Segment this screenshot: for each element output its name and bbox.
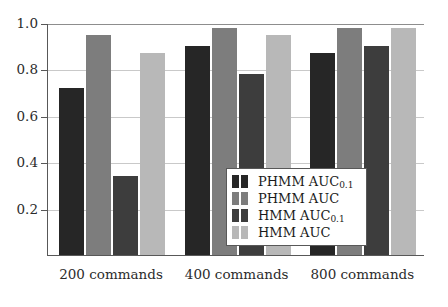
legend-item-1: PHMM AUC0.1: [232, 173, 360, 190]
y-tick-label-0.2: 0.2: [0, 203, 38, 217]
bar-400-commands-series-1: [185, 46, 210, 255]
legend-swatch-icon-1: [232, 175, 252, 188]
y-tick-label-0.4: 0.4: [0, 156, 38, 170]
chart-legend: PHMM AUC0.1PHMM AUCHMM AUC0.1HMM AUC: [226, 168, 367, 246]
x-tick-label-800-commands: 800 commands: [302, 268, 422, 282]
legend-item-2: PHMM AUC: [232, 190, 360, 207]
y-tick-label-1.0: 1.0: [0, 17, 38, 31]
x-tick-label-200-commands: 200 commands: [51, 268, 171, 282]
y-tick-label-0.8: 0.8: [0, 63, 38, 77]
legend-label-3: HMM AUC0.1: [258, 209, 345, 222]
legend-label-4: HMM AUC: [258, 226, 330, 239]
legend-label-2: PHMM AUC: [258, 192, 339, 205]
y-tick-label-0.6: 0.6: [0, 110, 38, 124]
legend-item-3: HMM AUC0.1: [232, 207, 360, 224]
bar-800-commands-series-3: [364, 46, 389, 255]
x-tick-label-400-commands: 400 commands: [177, 268, 297, 282]
bar-chart-figure: 0.20.40.60.81.0 200 commands400 commands…: [0, 0, 448, 307]
bar-200-commands-series-4: [140, 53, 165, 255]
legend-item-4: HMM AUC: [232, 224, 360, 241]
legend-label-1: PHMM AUC0.1: [258, 175, 353, 188]
legend-swatch-icon-3: [232, 209, 252, 222]
bar-200-commands-series-3: [113, 176, 138, 255]
legend-swatch-icon-4: [232, 226, 252, 239]
bar-200-commands-series-1: [59, 88, 84, 255]
bar-800-commands-series-4: [391, 28, 416, 255]
bar-200-commands-series-2: [86, 35, 111, 255]
legend-swatch-icon-2: [232, 192, 252, 205]
